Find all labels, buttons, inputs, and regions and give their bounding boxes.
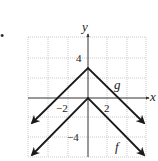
y-axis-label: y	[80, 19, 88, 34]
x-axis-label: x	[149, 89, 156, 104]
tick-x-2: 2	[104, 102, 110, 114]
graph: • x y 4 −4 −2 2 g f	[0, 0, 158, 161]
tick-y-neg4: −4	[67, 131, 79, 143]
tick-y-4: 4	[76, 52, 82, 64]
tick-x-neg2: −2	[56, 102, 68, 114]
curve-label-g: g	[114, 77, 121, 92]
bullet: •	[0, 29, 4, 43]
curve-label-f: f	[115, 139, 121, 154]
axes	[28, 34, 149, 157]
